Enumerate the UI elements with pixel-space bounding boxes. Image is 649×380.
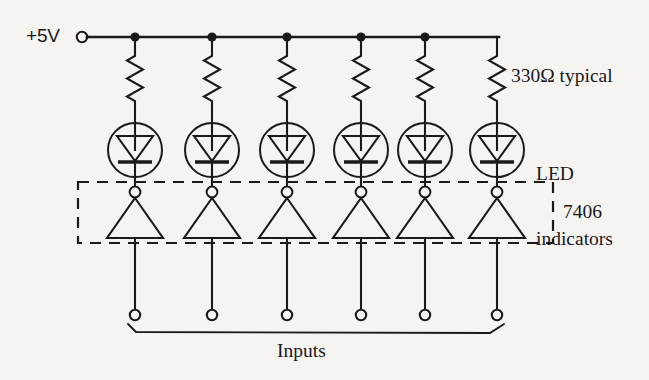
resistor-value-label: 330Ω typical bbox=[511, 65, 613, 87]
supply-terminal-icon[interactable] bbox=[77, 32, 87, 42]
inverter-bubble-icon bbox=[420, 187, 431, 198]
resistor-symbol bbox=[353, 50, 369, 107]
ic-package-outline bbox=[78, 182, 553, 243]
led-label-line-2: indicators bbox=[536, 228, 613, 250]
inverter-bubble-icon bbox=[130, 187, 141, 198]
input-terminal-icon[interactable] bbox=[420, 310, 430, 320]
channel-1 bbox=[107, 32, 163, 320]
inverter-triangle-icon bbox=[107, 198, 163, 238]
resistor-symbol bbox=[489, 50, 505, 107]
inverter-bubble-icon bbox=[492, 187, 503, 198]
channel-3 bbox=[259, 32, 315, 320]
circuit-diagram-figure: +5V 330Ω typical LED indicators 7406 Inp… bbox=[0, 0, 649, 380]
resistor-symbol bbox=[204, 50, 220, 107]
channel-4 bbox=[333, 32, 389, 320]
inputs-brace bbox=[128, 324, 504, 333]
resistor-symbol bbox=[279, 50, 295, 107]
input-terminal-icon[interactable] bbox=[356, 310, 366, 320]
channel-2 bbox=[184, 32, 240, 320]
input-terminal-icon[interactable] bbox=[207, 310, 217, 320]
inverter-triangle-icon bbox=[469, 198, 525, 238]
resistor-symbol bbox=[127, 50, 143, 107]
inverter-triangle-icon bbox=[259, 198, 315, 238]
inverter-triangle-icon bbox=[184, 198, 240, 238]
inputs-label: Inputs bbox=[277, 340, 326, 362]
input-terminal-icon[interactable] bbox=[130, 310, 140, 320]
input-terminal-icon[interactable] bbox=[282, 310, 292, 320]
inverter-bubble-icon bbox=[356, 187, 367, 198]
inverter-bubble-icon bbox=[282, 187, 293, 198]
inverter-bubble-icon bbox=[207, 187, 218, 198]
led-label-line-1: LED bbox=[536, 163, 613, 185]
inverter-triangle-icon bbox=[333, 198, 389, 238]
ic-part-number-label: 7406 bbox=[563, 201, 602, 223]
supply-voltage-label: +5V bbox=[26, 25, 60, 46]
input-terminal-icon[interactable] bbox=[492, 310, 502, 320]
channel-5 bbox=[397, 32, 453, 320]
inverter-triangle-icon bbox=[397, 198, 453, 238]
inputs-brace-path bbox=[128, 324, 504, 333]
resistor-symbol bbox=[417, 50, 433, 107]
